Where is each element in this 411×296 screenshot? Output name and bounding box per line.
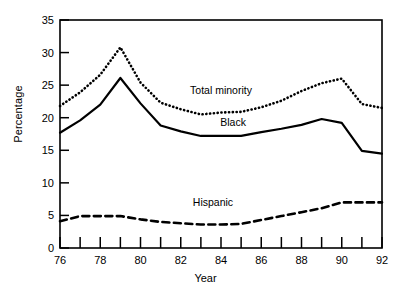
line-chart: 05101520253035 767880828486889092 Total … [0, 0, 411, 296]
y-axis-title: Percentage [12, 69, 24, 159]
y-axis-ticks: 05101520253035 [42, 14, 69, 254]
series-label-black: Black [220, 116, 246, 128]
y-tick-label: 35 [42, 14, 54, 26]
series-annotations: Total minorityTotal minorityBlackBlackHi… [190, 84, 253, 207]
plot-frame [60, 20, 382, 248]
y-tick-label: 0 [48, 242, 54, 254]
x-axis-title: Year [0, 272, 411, 284]
x-tick-label: 80 [134, 254, 146, 266]
series-label-hispanic: Hispanic [193, 196, 233, 208]
y-tick-label: 10 [42, 177, 54, 189]
series-line-total-minority [60, 47, 382, 114]
x-tick-label: 92 [376, 254, 388, 266]
x-tick-label: 90 [336, 254, 348, 266]
x-tick-label: 84 [215, 254, 227, 266]
y-tick-label: 15 [42, 144, 54, 156]
chart-figure: 05101520253035 767880828486889092 Total … [0, 0, 411, 296]
y-tick-label: 30 [42, 47, 54, 59]
x-tick-label: 82 [175, 254, 187, 266]
y-tick-label: 20 [42, 112, 54, 124]
x-tick-label: 88 [295, 254, 307, 266]
y-tick-label: 25 [42, 79, 54, 91]
series-label-total-minority: Total minority [190, 84, 253, 96]
x-tick-label: 86 [255, 254, 267, 266]
x-axis-ticks: 767880828486889092 [54, 237, 388, 266]
x-tick-label: 76 [54, 254, 66, 266]
x-tick-label: 78 [94, 254, 106, 266]
y-tick-label: 5 [48, 209, 54, 221]
